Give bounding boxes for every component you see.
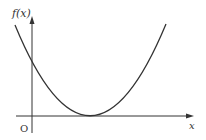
x-axis-label: x — [189, 120, 195, 131]
function-graph: f(x) x O — [0, 0, 206, 140]
y-axis-label: f(x) — [11, 7, 31, 20]
x-axis-arrow-icon — [186, 114, 194, 119]
origin-label: O — [20, 123, 28, 134]
parabola-curve — [15, 24, 166, 116]
